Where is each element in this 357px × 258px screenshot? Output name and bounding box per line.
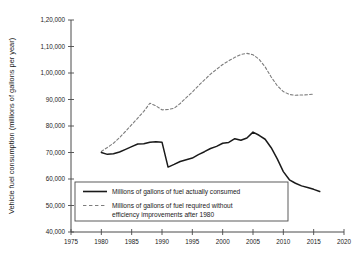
x-tick-label: 1980 [94,238,109,245]
fuel-consumption-line-chart: 40,00050,00060,00070,00080,00090,0001,00… [0,0,357,258]
x-tick-label: 2010 [276,238,291,245]
x-tick-label: 2000 [216,238,231,245]
y-tick-label: 60,000 [46,175,66,182]
legend-label-required-line2: efficiency improvements after 1980 [112,211,214,219]
y-tick-label: 40,000 [46,228,66,235]
x-tick-label: 1985 [125,238,140,245]
x-tick-label: 2015 [307,238,322,245]
legend-label-required-line1: Millions of gallons of fuel required wit… [112,202,233,210]
y-tick-label: 90,000 [46,96,66,103]
chart-legend: Millions of gallons of fuel actually con… [75,182,288,221]
y-tick-label: 1,00,000 [40,69,65,76]
y-tick-label: 1,20,000 [40,16,65,23]
x-tick-label: 2020 [337,238,352,245]
y-axis-title: Vehicle fuel consumption (millions of ga… [7,38,16,214]
chart-container: 40,00050,00060,00070,00080,00090,0001,00… [0,0,357,258]
y-tick-label: 80,000 [46,122,66,129]
y-tick-label: 70,000 [46,149,66,156]
y-tick-label: 1,10,000 [40,43,65,50]
y-tick-label: 50,000 [46,202,66,209]
x-tick-label: 1990 [155,238,170,245]
x-tick-label: 1975 [64,238,79,245]
legend-label-actually-consumed: Millions of gallons of fuel actually con… [112,188,241,196]
x-tick-label: 2005 [246,238,261,245]
x-tick-label: 1995 [185,238,200,245]
